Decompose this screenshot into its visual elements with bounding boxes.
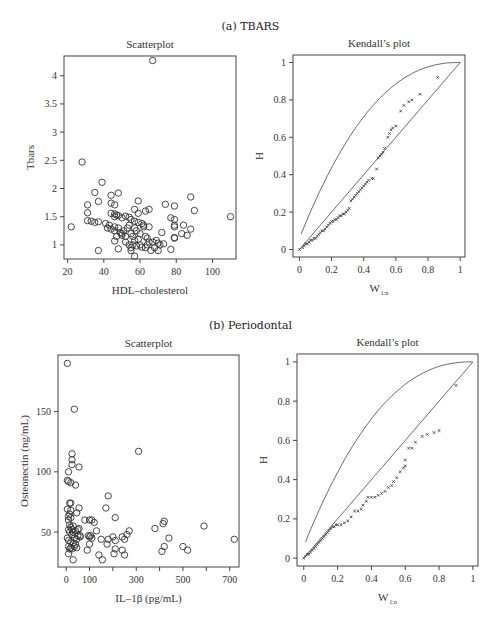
data-point [65, 469, 71, 475]
data-point [69, 461, 75, 467]
data-point [357, 510, 360, 513]
diagonal-reference-line [304, 362, 473, 558]
a_scatter-chart: Scatterplot2040608010011.522.533.54HDL–c… [24, 38, 236, 296]
b_scatter-chart: Scatterplot010030050070050100150IL–1β (p… [18, 337, 239, 605]
x-tick-label: 80 [171, 266, 181, 277]
data-point [95, 219, 101, 225]
chart-title: Scatterplot [125, 337, 173, 349]
data-point [350, 516, 353, 519]
data-point [407, 100, 410, 103]
data-point [377, 494, 380, 497]
b_kendall-chart: Kendall’s plot00.20.40.60.8100.20.40.60.… [257, 336, 478, 605]
plot-frame [64, 56, 236, 259]
data-point [419, 93, 422, 96]
data-point [367, 179, 370, 182]
x-tick-label: 0 [64, 574, 69, 585]
data-point [95, 247, 101, 253]
y-tick-label: 1 [281, 57, 286, 68]
data-point [84, 202, 90, 208]
data-point [159, 229, 165, 235]
data-point [191, 207, 197, 213]
x-tick-label: 60 [135, 266, 145, 277]
data-point [93, 528, 99, 534]
data-point [372, 177, 375, 180]
data-point [150, 57, 156, 63]
data-point [399, 110, 402, 113]
data-point [365, 500, 368, 503]
data-point [353, 510, 356, 513]
data-point [115, 190, 121, 196]
x-tick-label: 0.4 [357, 264, 370, 275]
data-point [298, 248, 301, 251]
x-tick-label: 700 [222, 574, 237, 585]
data-point [98, 536, 104, 542]
data-point [411, 99, 414, 102]
x-tick-label: 0 [301, 573, 306, 584]
data-point [95, 198, 101, 204]
data-point [99, 179, 105, 185]
a_kendall-chart: Kendall’s plot00.20.40.60.8100.20.40.60.… [253, 37, 465, 296]
x-axis-label: IL–1β (pg/mL) [115, 592, 182, 605]
y-tick-label: 1 [285, 356, 290, 367]
x-axis-label: HDL–cholesterol [112, 284, 188, 296]
x-axis-label: W1:n [378, 591, 397, 605]
data-point [380, 492, 383, 495]
data-point [152, 525, 158, 531]
y-tick-label: 150 [36, 406, 51, 417]
data-point [433, 431, 436, 434]
y-axis-label: H [253, 152, 265, 160]
y-tick-label: 100 [36, 466, 51, 477]
y-tick-label: 2 [52, 183, 57, 194]
data-point [343, 522, 346, 525]
data-point [111, 202, 117, 208]
x-tick-label: 40 [99, 266, 109, 277]
data-point [367, 496, 370, 499]
data-point [162, 201, 168, 207]
data-point [392, 480, 395, 483]
data-point [438, 429, 441, 432]
data-point [414, 441, 417, 444]
x-tick-label: 1 [458, 264, 463, 275]
data-point [166, 535, 172, 541]
charts-canvas: Scatterplot2040608010011.522.533.54HDL–c… [0, 0, 501, 627]
chart-title: Kendall’s plot [356, 336, 418, 348]
data-point [403, 104, 406, 107]
data-point [86, 541, 92, 547]
x-tick-label: 0.8 [433, 573, 446, 584]
data-point [383, 147, 386, 150]
x-tick-label: 0.2 [325, 264, 338, 275]
data-point [396, 476, 399, 479]
data-point [131, 206, 137, 212]
data-point [108, 192, 114, 198]
x-tick-label: 1 [470, 573, 475, 584]
y-tick-label: 0 [281, 244, 286, 255]
data-point [404, 465, 407, 468]
x-tick-label: 20 [63, 266, 73, 277]
data-point [201, 523, 207, 529]
y-tick-label: 50 [41, 527, 51, 538]
data-point [69, 451, 75, 457]
data-point [115, 246, 121, 252]
data-point [455, 384, 458, 387]
data-point [370, 496, 373, 499]
data-point [391, 127, 394, 130]
data-point [390, 484, 393, 487]
data-point [79, 159, 85, 165]
data-point [346, 520, 349, 523]
y-tick-label: 0.2 [278, 513, 291, 524]
data-point [171, 203, 177, 209]
data-point [387, 136, 390, 139]
y-tick-label: 0.6 [278, 435, 291, 446]
data-point [76, 464, 82, 470]
data-point [360, 508, 363, 511]
data-point [142, 208, 148, 214]
y-tick-label: 1 [52, 239, 57, 250]
y-tick-label: 0.4 [278, 474, 291, 485]
data-point [112, 514, 118, 520]
data-point [382, 151, 385, 154]
data-point [168, 215, 174, 221]
data-point [84, 210, 90, 216]
x-tick-label: 300 [129, 574, 144, 585]
data-point [103, 505, 109, 511]
data-point [407, 447, 410, 450]
